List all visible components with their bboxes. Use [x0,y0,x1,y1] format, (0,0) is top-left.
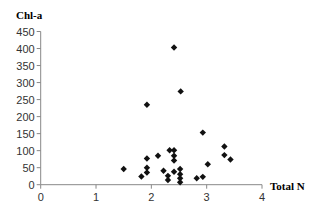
data-point-diamond-icon [165,177,171,183]
data-point-diamond-icon [171,44,177,50]
data-point-diamond-icon [138,173,144,179]
x-tick-label: 3 [204,191,210,203]
data-point-diamond-icon [221,143,227,149]
data-points [120,44,233,185]
data-point-diamond-icon [227,156,233,162]
data-point-diamond-icon [194,175,200,181]
x-tick-label: 0 [38,191,44,203]
x-tick-label: 2 [148,191,154,203]
y-tick-label: 100 [16,145,34,157]
data-point-diamond-icon [144,155,150,161]
y-tick-label: 400 [16,43,34,55]
data-point-diamond-icon [155,153,161,159]
x-axis-title: Total N [270,180,305,192]
data-point-diamond-icon [177,88,183,94]
data-point-diamond-icon [120,166,126,172]
x-tick-label: 1 [93,191,99,203]
data-point-diamond-icon [205,161,211,167]
data-point-diamond-icon [221,152,227,158]
x-tick-label: 4 [259,191,265,203]
data-point-diamond-icon [144,101,150,107]
y-tick-label: 300 [16,77,34,89]
y-tick-label: 450 [16,26,34,38]
y-tick-label: 0 [29,179,35,191]
y-tick-label: 150 [16,128,34,140]
data-point-diamond-icon [171,147,177,153]
y-axis-title: Chl-a [16,9,43,21]
data-point-diamond-icon [200,174,206,180]
y-tick-label: 200 [16,111,34,123]
x-axis: 01234 [38,185,265,203]
y-tick-label: 350 [16,60,34,72]
y-axis: 050100150200250300350400450 [16,26,40,191]
data-point-diamond-icon [200,129,206,135]
data-point-diamond-icon [160,168,166,174]
data-point-diamond-icon [171,157,177,163]
y-tick-label: 50 [22,162,34,174]
y-tick-label: 250 [16,94,34,106]
data-point-diamond-icon [144,169,150,175]
data-point-diamond-icon [171,169,177,175]
scatter-chart: 050100150200250300350400450 01234 Chl-a … [0,0,318,212]
